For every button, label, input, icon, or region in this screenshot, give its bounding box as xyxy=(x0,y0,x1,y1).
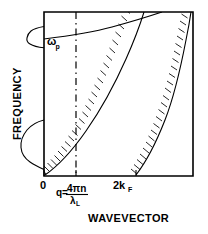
x-axis-label-group: WAVEVECTOR xyxy=(88,212,169,224)
plasmon-dispersion-curve xyxy=(44,12,162,39)
continuum-lower-boundary xyxy=(41,9,144,175)
dispersion-plot: FREQUENCY xyxy=(0,0,208,234)
x-tick-2kf-subscript: F xyxy=(128,186,133,193)
x-axis-ticks xyxy=(44,170,136,176)
continuum-lower-hatching xyxy=(41,9,130,174)
x-tick-q: q= 4πn λ L xyxy=(56,183,88,207)
omega-p-subscript: p xyxy=(56,43,60,51)
x-tick-zero: 0 xyxy=(40,179,46,191)
x-axis-label: WAVEVECTOR xyxy=(88,212,169,224)
x-tick-zero-label: 0 xyxy=(40,179,46,191)
continuum-upper-hatching xyxy=(131,8,189,175)
x-tick-2kf-label: 2k xyxy=(113,179,126,191)
x-tick-q-numerator: 4πn xyxy=(67,183,86,194)
y-axis-label-group: FREQUENCY xyxy=(11,67,23,140)
x-tick-q-denominator-subscript: L xyxy=(76,200,80,207)
spectral-peak-single-particle-curve xyxy=(21,120,44,170)
figure-container: FREQUENCY xyxy=(0,0,208,234)
y-axis-label: FREQUENCY xyxy=(11,67,23,140)
continuum-upper-boundary xyxy=(131,8,191,176)
spectral-peak-plasmon-curve xyxy=(27,27,44,48)
x-tick-2kf: 2k F xyxy=(113,179,133,193)
